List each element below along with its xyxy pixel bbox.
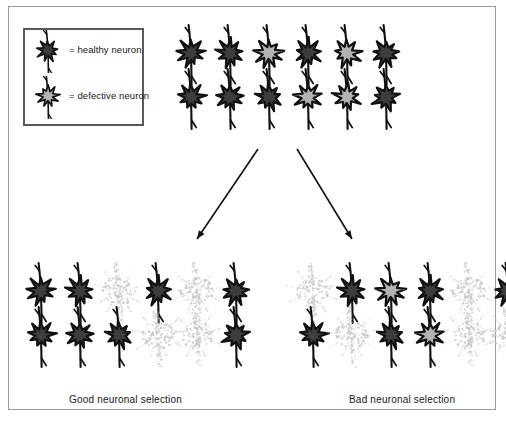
defective-neuron-icon — [31, 76, 65, 124]
good-neuron-r2c2-healthy — [58, 309, 102, 365]
good-neuron-r2c4-dying — [136, 309, 180, 365]
initial-neuron-population — [169, 27, 403, 145]
bad-neuron-r2c5-dying — [447, 309, 491, 365]
bad-neuronal-selection-group — [291, 265, 506, 383]
bad-neuron-r2c4-defective — [408, 309, 452, 365]
good-neuronal-selection-group — [19, 265, 253, 383]
caption-good-selection: Good neuronal selection — [69, 394, 182, 405]
bad-neuron-r2c3-healthy — [369, 309, 413, 365]
figure-frame: = healthy neuron = defective neuron Good… — [8, 6, 496, 410]
legend-box: = healthy neuron = defective neuron — [23, 28, 144, 126]
good-neuron-r2c1-healthy — [19, 309, 63, 365]
initial-neuron-r2c5-defective — [325, 71, 369, 127]
healthy-neuron-icon — [31, 30, 65, 78]
legend-item-defective: = defective neuron — [25, 80, 142, 124]
good-neuron-r2c5-dying — [175, 309, 219, 365]
legend-label-defective: = defective neuron — [69, 90, 149, 101]
initial-neuron-r2c1-healthy — [169, 71, 213, 127]
initial-neuron-r2c3-healthy — [247, 71, 291, 127]
initial-neuron-r2c4-defective — [286, 71, 330, 127]
bad-neuron-r2c1-healthy — [291, 309, 335, 365]
legend-label-healthy: = healthy neuron — [69, 44, 142, 55]
bad-neuron-r2c2-dying — [330, 309, 374, 365]
good-neuron-r2c6-healthy — [214, 309, 258, 365]
initial-neuron-r2c2-healthy — [208, 71, 252, 127]
initial-neuron-r2c6-healthy — [364, 71, 408, 127]
good-neuron-r2c3-healthy — [97, 309, 141, 365]
bad-neuron-r2c6-dying — [486, 309, 506, 365]
legend-item-healthy: = healthy neuron — [25, 34, 142, 78]
caption-bad-selection: Bad neuronal selection — [349, 394, 455, 405]
